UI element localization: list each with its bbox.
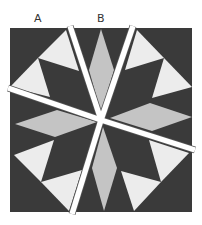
quilt-block [0, 0, 202, 225]
